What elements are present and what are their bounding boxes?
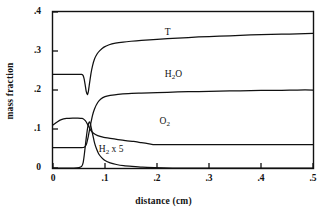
y-tick-label-4: .4 <box>17 6 41 16</box>
y-tick-label-0: 0 <box>17 162 41 172</box>
x-tick-label-5: .5 <box>301 173 325 183</box>
x-tick-label-1: .1 <box>93 173 117 183</box>
chart-figure: distance (cm) mass fraction 0.1.2.3.4.5 … <box>0 0 327 212</box>
curve-label-T: T <box>165 27 171 37</box>
data-curves <box>53 33 313 168</box>
curve-H2O <box>53 90 313 148</box>
y-tick-label-2: .2 <box>17 84 41 94</box>
x-axis-title: distance (cm) <box>0 196 327 206</box>
y-axis-title: mass fraction <box>5 51 15 131</box>
y-tick-label-3: .3 <box>17 45 41 55</box>
x-tick-label-3: .3 <box>197 173 221 183</box>
x-tick-label-4: .4 <box>249 173 273 183</box>
x-tick-label-2: .2 <box>145 173 169 183</box>
curve-label-O2: O2 <box>160 116 170 128</box>
curve-T <box>53 33 313 94</box>
x-tick-label-0: 0 <box>41 173 65 183</box>
curve-label-H2O: H2O <box>165 69 182 81</box>
curve-label-H2x5: H2 x 5 <box>99 144 124 156</box>
y-tick-label-1: .1 <box>17 123 41 133</box>
